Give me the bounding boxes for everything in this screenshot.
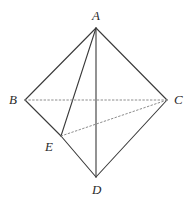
geometry-canvas	[0, 0, 190, 201]
edge-ae	[61, 28, 96, 136]
edge-dc	[96, 100, 167, 177]
vertex-label-a: A	[92, 9, 100, 22]
edge-ac	[96, 28, 167, 100]
vertex-label-b: B	[9, 93, 17, 106]
edge-ed	[61, 136, 96, 177]
geometry-figure: ABCDE	[0, 0, 190, 201]
vertex-label-c: C	[174, 93, 183, 106]
solid-edge-group	[25, 28, 167, 177]
edge-be	[25, 100, 61, 136]
vertex-label-d: D	[92, 183, 101, 196]
vertex-label-e: E	[45, 140, 53, 153]
edge-ab	[25, 28, 96, 100]
